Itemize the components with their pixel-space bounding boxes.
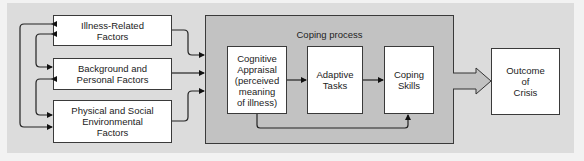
adaptive-tasks-label: Adaptive Tasks — [317, 69, 354, 91]
outcome-of-crisis-box: Outcome of Crisis — [491, 48, 560, 115]
illness-related-factors-label: Illness-Related Factors — [81, 20, 144, 42]
outcome-of-crisis-label: Outcome of Crisis — [506, 65, 545, 98]
adaptive-tasks-box: Adaptive Tasks — [307, 46, 363, 114]
cognitive-appraisal-label: Cognitive Appraisal (perceived meaning o… — [235, 53, 279, 108]
coping-skills-label: Coping Skills — [394, 69, 424, 91]
coping-skills-box: Coping Skills — [384, 46, 434, 114]
background-personal-factors-box: Background and Personal Factors — [53, 58, 172, 90]
cognitive-appraisal-box: Cognitive Appraisal (perceived meaning o… — [227, 46, 287, 114]
physical-social-environmental-factors-box: Physical and Social Environmental Factor… — [53, 100, 172, 143]
coping-process-title: Coping process — [206, 29, 453, 40]
diagram-canvas: Illness-Related Factors Background and P… — [0, 0, 584, 161]
background-personal-factors-label: Background and Personal Factors — [77, 63, 149, 85]
illness-related-factors-box: Illness-Related Factors — [53, 15, 172, 46]
physical-social-environmental-factors-label: Physical and Social Environmental Factor… — [71, 105, 153, 138]
